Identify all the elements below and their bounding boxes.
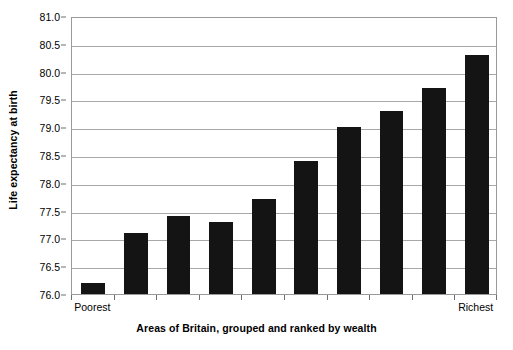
x-axis-tick-mark [496,295,497,300]
bar[interactable] [209,222,233,294]
y-axis-tick-label: 81.0 [40,11,60,23]
x-axis-label-poorest: Poorest [74,301,110,313]
y-axis-tick-mark [61,17,66,18]
bar[interactable] [337,127,361,294]
bar[interactable] [124,233,148,294]
bar[interactable] [422,88,446,294]
x-axis-tick-mark [241,295,242,300]
bar[interactable] [294,161,318,294]
y-axis-tick-label: 77.0 [40,233,60,245]
y-axis-title-text: Life expectancy at birth [7,90,19,210]
y-axis-tick-label: 79.5 [40,94,60,106]
x-axis-tick-mark [454,295,455,300]
bar[interactable] [167,216,191,294]
x-axis-tick-mark [327,295,328,300]
y-axis-tick-label: 79.0 [40,122,60,134]
x-axis-category-labels: PoorestRichest [71,301,497,317]
x-axis-tick-mark [284,295,285,300]
y-axis-tick-mark [61,183,66,184]
x-axis-label-richest: Richest [458,301,493,313]
y-axis-tick-mark [61,211,66,212]
y-axis-tick-label: 77.5 [40,206,60,218]
y-axis-tick-mark [61,267,66,268]
x-axis-tick-mark [114,295,115,300]
y-axis-tick-labels: 81.080.580.079.579.078.578.077.577.076.5… [26,17,66,295]
bar[interactable] [380,111,404,294]
bar[interactable] [465,55,489,294]
bars-layer [72,18,496,294]
y-axis-tick-label: 76.5 [40,261,60,273]
y-axis-tick-mark [61,72,66,73]
x-axis-tick-mark [156,295,157,300]
plot-area [71,17,497,295]
y-axis-title: Life expectancy at birth [0,0,26,300]
bar-chart: Life expectancy at birth 81.080.580.079.… [0,0,513,350]
x-axis-tick-mark [199,295,200,300]
y-axis-tick-mark [61,295,66,296]
bar[interactable] [252,199,276,294]
y-axis-tick-label: 76.0 [40,289,60,301]
x-axis-title: Areas of Britain, grouped and ranked by … [0,322,513,334]
y-axis-tick-label: 78.5 [40,150,60,162]
y-axis-tick-mark [61,156,66,157]
bar[interactable] [81,283,105,294]
x-axis-tick-mark [369,295,370,300]
y-axis-tick-label: 78.0 [40,178,60,190]
y-axis-tick-mark [61,128,66,129]
y-axis-tick-mark [61,100,66,101]
y-axis-tick-mark [61,239,66,240]
y-axis-tick-label: 80.0 [40,67,60,79]
x-axis-tick-mark [412,295,413,300]
x-axis-tick-mark [71,295,72,300]
y-axis-tick-label: 80.5 [40,39,60,51]
y-axis-tick-mark [61,44,66,45]
